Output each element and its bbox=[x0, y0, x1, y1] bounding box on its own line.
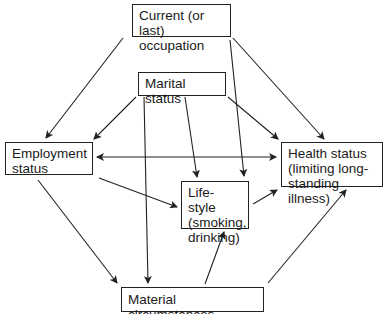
edge-marital-lifestyle bbox=[185, 97, 197, 177]
edge-marital-employment bbox=[94, 97, 136, 139]
edge-lifestyle-health bbox=[253, 190, 277, 204]
edge-occupation-employment bbox=[46, 38, 123, 138]
node-material-circumstances: Material circumstances bbox=[121, 287, 264, 312]
edge-marital-material bbox=[144, 97, 148, 283]
node-occupation: Current (or last) occupation bbox=[132, 4, 231, 37]
node-lifestyle: Life-style (smoking, drinking) bbox=[181, 181, 249, 229]
edge-marital-health bbox=[228, 97, 278, 139]
node-employment-status: Employment status bbox=[5, 142, 93, 175]
node-marital-status: Marital status bbox=[138, 72, 226, 96]
edge-employment-lifestyle bbox=[99, 178, 177, 207]
node-health-status: Health status (limiting long- standing i… bbox=[281, 142, 383, 187]
edge-employment-material bbox=[38, 180, 117, 283]
edge-occupation-health bbox=[233, 38, 324, 139]
